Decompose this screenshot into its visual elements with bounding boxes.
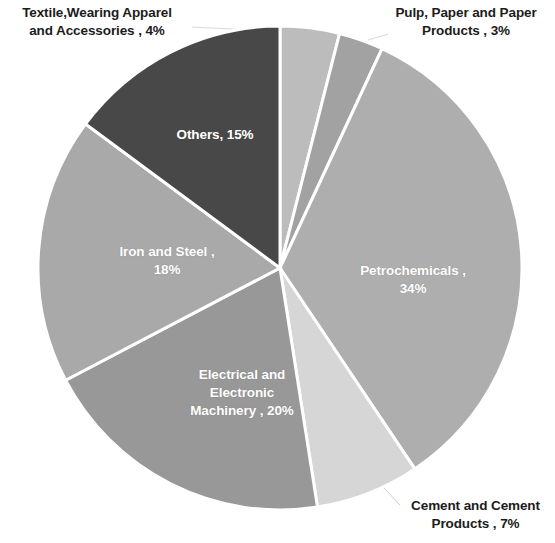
slice-label-cement-line2: Products , 7% (398, 515, 553, 533)
slice-label-petrochemicals-line1: Petrochemicals , (343, 262, 483, 280)
slice-label-electrical-electronic-line1: Electrical and (152, 366, 332, 384)
pie-chart: Textile,Wearing Apparel and Accessories … (0, 0, 555, 543)
slice-label-electrical-electronic: Electrical and Electronic Machinery , 20… (152, 366, 332, 421)
slice-label-cement: Cement and Cement Products , 7% (398, 497, 553, 533)
slice-label-pulp-paper-line1: Pulp, Paper and Paper (378, 4, 554, 22)
slice-label-iron-steel-line1: Iron and Steel , (88, 243, 246, 261)
slice-label-electrical-electronic-line3: Machinery , 20% (152, 402, 332, 420)
slice-label-textile: Textile,Wearing Apparel and Accessories … (2, 4, 192, 40)
slice-label-iron-steel-line2: 18% (88, 261, 246, 279)
slice-label-electrical-electronic-line2: Electronic (152, 384, 332, 402)
slice-label-petrochemicals-line2: 34% (343, 280, 483, 298)
slice-label-cement-line1: Cement and Cement (398, 497, 553, 515)
slice-label-iron-steel: Iron and Steel , 18% (88, 243, 246, 279)
slice-label-textile-line2: and Accessories , 4% (2, 22, 192, 40)
slice-label-textile-line1: Textile,Wearing Apparel (2, 4, 192, 22)
slice-label-others: Others, 15% (150, 126, 280, 144)
slice-label-others-line1: Others, 15% (150, 126, 280, 144)
slice-label-pulp-paper-line2: Products , 3% (378, 22, 554, 40)
slice-label-petrochemicals: Petrochemicals , 34% (343, 262, 483, 298)
slice-label-pulp-paper: Pulp, Paper and Paper Products , 3% (378, 4, 554, 40)
